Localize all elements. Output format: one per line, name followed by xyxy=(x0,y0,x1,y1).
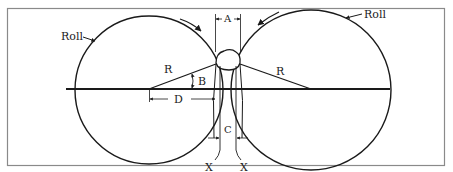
label-a: A xyxy=(223,13,232,24)
label-d: D xyxy=(174,93,183,106)
angle-b-arc xyxy=(192,74,193,88)
label-roll-right: Roll xyxy=(364,8,386,21)
right-roll-circle xyxy=(231,10,391,170)
label-roll-left: Roll xyxy=(61,30,83,43)
label-c: C xyxy=(224,124,232,135)
x-right-tail xyxy=(236,150,241,160)
roll-diagram-figure: A R R B D C X X Roll Roll xyxy=(0,0,453,172)
label-b: B xyxy=(198,75,206,88)
label-radius-left: R xyxy=(164,63,173,76)
label-radius-right: R xyxy=(276,65,285,78)
left-roll-circle xyxy=(75,16,223,164)
right-roll-pointer xyxy=(346,14,362,18)
ribbon-left-edge xyxy=(213,64,216,138)
x-left-tail xyxy=(215,150,220,160)
left-roll-pointer xyxy=(83,37,95,41)
label-x-left: X xyxy=(205,161,213,172)
label-x-right: X xyxy=(240,161,248,172)
